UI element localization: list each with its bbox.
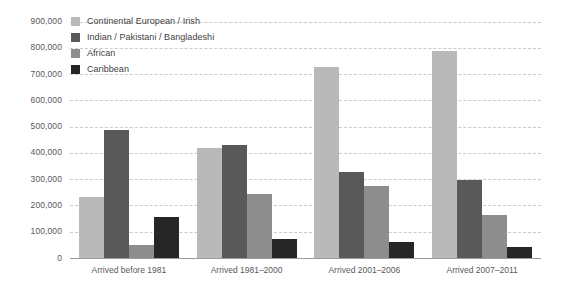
- y-axis-tick-label: 400,000: [0, 148, 62, 157]
- legend-item: African: [71, 45, 214, 61]
- x-axis-category-label: Arrived before 1981: [70, 266, 188, 275]
- y-axis-tick-label: 0: [0, 254, 62, 263]
- legend-item-label: Indian / Pakistani / Bangladeshi: [87, 33, 214, 42]
- bar: [314, 67, 339, 258]
- legend-item-label: African: [87, 49, 115, 58]
- y-axis-tick-label: 300,000: [0, 175, 62, 184]
- legend-item: Indian / Pakistani / Bangladeshi: [71, 29, 214, 45]
- bar: [129, 245, 154, 258]
- bar-chart: 0100,000200,000300,000400,000500,000600,…: [0, 0, 563, 290]
- bar: [272, 239, 297, 258]
- y-axis-tick-label: 800,000: [0, 43, 62, 52]
- y-axis-tick-label: 200,000: [0, 201, 62, 210]
- bar: [222, 145, 247, 258]
- bar: [104, 130, 129, 258]
- legend-swatch-icon: [71, 49, 80, 58]
- y-axis-tick-label: 700,000: [0, 70, 62, 79]
- bar: [154, 217, 179, 258]
- y-axis-tick-label: 500,000: [0, 122, 62, 131]
- bar: [432, 51, 457, 258]
- legend-item: Continental European / Irish: [71, 13, 214, 29]
- gridline: [70, 153, 541, 154]
- bar: [79, 197, 104, 258]
- legend-item-label: Caribbean: [87, 65, 129, 74]
- y-axis-tick-label: 600,000: [0, 96, 62, 105]
- legend-swatch-icon: [71, 17, 80, 26]
- legend-swatch-icon: [71, 65, 80, 74]
- bar: [482, 215, 507, 258]
- x-axis-category-label: Arrived 2001–2006: [306, 266, 424, 275]
- bar: [339, 172, 364, 258]
- y-axis-tick-label: 900,000: [0, 17, 62, 26]
- y-axis-tick-label: 100,000: [0, 227, 62, 236]
- x-axis-category-label: Arrived 2007–2011: [423, 266, 541, 275]
- bar: [197, 148, 222, 258]
- legend-swatch-icon: [71, 33, 80, 42]
- bar: [247, 194, 272, 258]
- legend-item: Caribbean: [71, 61, 214, 77]
- bar: [389, 242, 414, 258]
- bar: [507, 247, 532, 258]
- bar: [364, 186, 389, 258]
- x-axis-category-label: Arrived 1981–2000: [188, 266, 306, 275]
- legend-item-label: Continental European / Irish: [87, 17, 200, 26]
- x-axis-baseline: [70, 258, 541, 259]
- gridline: [70, 127, 541, 128]
- y-axis: 0100,000200,000300,000400,000500,000600,…: [0, 0, 62, 290]
- chart-legend: Continental European / IrishIndian / Pak…: [71, 13, 214, 77]
- gridline: [70, 100, 541, 101]
- bar: [457, 180, 482, 258]
